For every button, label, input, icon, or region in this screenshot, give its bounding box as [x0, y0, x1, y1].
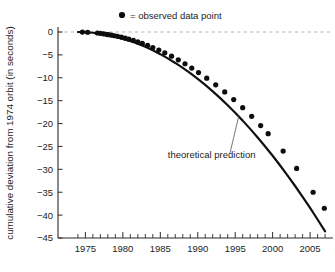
data-point	[249, 114, 254, 119]
data-point	[213, 82, 218, 87]
data-point	[176, 57, 181, 62]
x-axis-ticks: 1975198019851990199520002005	[75, 243, 321, 254]
y-tick-label: −30	[37, 164, 53, 175]
data-point	[182, 61, 187, 66]
data-point	[140, 41, 145, 46]
axis-lines	[58, 27, 333, 238]
data-point	[294, 166, 299, 171]
chart-figure: 0−5−10−15−20−25−30−35−40−45 197519801985…	[0, 0, 335, 272]
y-tick-label: −45	[37, 232, 53, 243]
x-tick-label: 1975	[75, 243, 96, 254]
x-tick-label: 1980	[112, 243, 133, 254]
data-point	[231, 97, 236, 102]
data-point	[80, 29, 85, 34]
data-point	[156, 47, 161, 52]
y-tick-label: −5	[42, 49, 53, 60]
data-point	[150, 45, 155, 50]
legend: = observed data point	[119, 10, 222, 21]
data-point	[85, 30, 90, 35]
data-point	[240, 105, 245, 110]
data-point	[131, 38, 136, 43]
y-tick-label: −25	[37, 141, 53, 152]
x-tick-label: 2000	[262, 243, 283, 254]
legend-marker-icon	[119, 12, 125, 18]
theoretical-prediction-curve	[78, 32, 325, 231]
y-tick-label: −10	[37, 72, 53, 83]
y-tick-label: −35	[37, 187, 53, 198]
data-point	[135, 39, 140, 44]
data-point	[189, 65, 194, 70]
data-point	[311, 190, 316, 195]
x-axis-minor-ticks	[78, 232, 325, 238]
x-tick-label: 1995	[225, 243, 246, 254]
data-point	[258, 123, 263, 128]
data-point	[169, 54, 174, 59]
y-axis-title: cumulative deviation from 1974 orbit (in…	[4, 26, 15, 239]
legend-label: = observed data point	[130, 10, 222, 21]
data-point	[222, 89, 227, 94]
data-point	[162, 50, 167, 55]
data-point	[196, 70, 201, 75]
y-axis-ticks: 0−5−10−15−20−25−30−35−40−45	[37, 26, 63, 243]
x-tick-label: 2005	[300, 243, 321, 254]
data-point	[145, 43, 150, 48]
theoretical-prediction-label: theoretical prediction	[168, 149, 256, 160]
data-point	[266, 131, 271, 136]
x-tick-label: 1990	[187, 243, 208, 254]
y-tick-label: −15	[37, 95, 53, 106]
orbital-decay-plot: 0−5−10−15−20−25−30−35−40−45 197519801985…	[0, 0, 335, 272]
data-point	[204, 76, 209, 81]
y-tick-label: −40	[37, 210, 53, 221]
data-point	[126, 37, 131, 42]
data-point	[281, 148, 286, 153]
data-point	[322, 206, 327, 211]
y-tick-label: 0	[48, 26, 53, 37]
y-tick-label: −20	[37, 118, 53, 129]
observed-data-points	[80, 29, 327, 210]
x-tick-label: 1985	[150, 243, 171, 254]
